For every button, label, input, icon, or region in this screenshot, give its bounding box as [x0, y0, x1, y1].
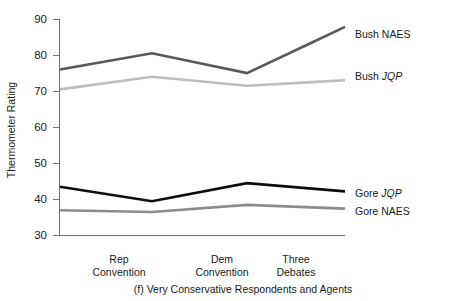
x-tick-label-debates-line2: Debates	[276, 266, 315, 278]
y-tick-label-80: 80	[34, 49, 47, 61]
series-label-gore-jqp: Gore JQP	[355, 187, 402, 199]
series-label-gore-naes: Gore NAES	[355, 205, 410, 217]
series-line-gore-naes	[60, 205, 345, 212]
series-line-bush-naes	[60, 27, 345, 73]
series-label-bush-naes: Bush NAES	[355, 28, 410, 40]
y-tick-label-40: 40	[34, 193, 47, 205]
x-tick-label-debates-line1: Three	[282, 253, 310, 265]
x-tick-label-rep-line2: Convention	[92, 266, 145, 278]
series-line-gore-jqp	[60, 183, 345, 201]
series-line-bush-jqp	[60, 77, 345, 90]
y-tick-label-60: 60	[34, 121, 47, 133]
y-tick-label-90: 90	[34, 13, 47, 25]
y-tick-label-50: 50	[34, 157, 47, 169]
x-tick-label-dem-line2: Convention	[195, 266, 248, 278]
chart-figure: 90 80 70 60 50 40 30 Thermometer Rating …	[0, 0, 450, 301]
figure-caption: (f) Very Conservative Respondents and Ag…	[134, 283, 352, 295]
x-tick-label-rep-line1: Rep	[109, 253, 128, 265]
x-tick-label-dem-line1: Dem	[211, 253, 233, 265]
y-tick-label-70: 70	[34, 85, 47, 97]
y-tick-label-30: 30	[34, 229, 47, 241]
line-chart-canvas: 90 80 70 60 50 40 30 Thermometer Rating …	[0, 0, 450, 301]
y-axis-title: Thermometer Rating	[5, 82, 17, 178]
series-label-bush-jqp: Bush JQP	[355, 70, 402, 82]
